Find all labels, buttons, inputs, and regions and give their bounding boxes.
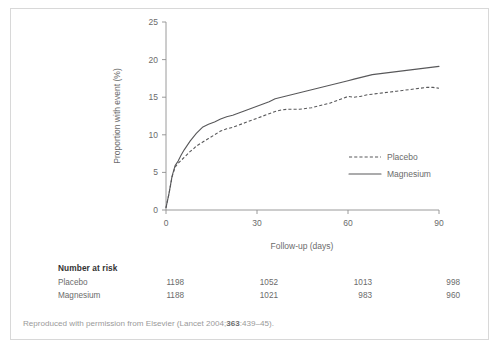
footer-suffix: :439–45). [240,319,274,328]
risk-cell: 1021 [244,291,278,300]
y-tick-label: 20 [149,55,159,65]
legend-label-placebo: Placebo [387,152,418,162]
x-tick-label: 60 [343,218,353,228]
x-tick-label: 0 [164,218,169,228]
risk-cell: 960 [426,291,460,300]
risk-table-title: Number at risk [58,263,118,273]
risk-row-label: Magnesium [58,291,100,300]
y-axis-title: Proportion with event (%) [112,68,122,164]
series-line-placebo [166,87,439,207]
risk-row-label: Placebo [58,278,88,287]
kaplan-meier-chart: 0510152025 0306090 Proportion with event… [11,9,490,259]
x-tick-label: 30 [252,218,262,228]
figure-card: 0510152025 0306090 Proportion with event… [10,8,489,340]
y-tick-label: 0 [153,205,158,215]
risk-cell: 1013 [338,278,372,287]
risk-cell: 998 [426,278,460,287]
y-tick-label: 15 [149,92,159,102]
risk-cell: 1188 [150,291,184,300]
x-axis-title: Follow-up (days) [271,241,334,251]
y-tick-label: 25 [149,17,159,27]
chart-plot-region: 0510152025 0306090 Proportion with event… [11,9,490,259]
legend-label-magnesium: Magnesium [387,169,431,179]
chart-legend: Placebo Magnesium [349,152,431,179]
source-attribution: Reproduced with permission from Elsevier… [23,319,483,328]
number-at-risk-table: Number at risk Placebo 1198 1052 1013 99… [11,263,490,311]
series-line-magnesium [166,66,439,207]
top-cutoff-strip [0,0,499,6]
footer-prefix: Reproduced with permission from Elsevier… [23,319,226,328]
y-tick-label: 10 [149,130,159,140]
footer-volume: 363 [226,319,240,328]
risk-cell: 983 [338,291,372,300]
x-tick-label: 90 [434,218,444,228]
y-axis-ticks: 0510152025 [149,17,166,215]
x-axis-ticks: 0306090 [164,210,444,228]
y-tick-label: 5 [153,167,158,177]
table-row: Magnesium 1188 1021 983 960 [11,291,490,305]
risk-cell: 1052 [244,278,278,287]
table-row: Placebo 1198 1052 1013 998 [11,278,490,292]
risk-cell: 1198 [150,278,184,287]
